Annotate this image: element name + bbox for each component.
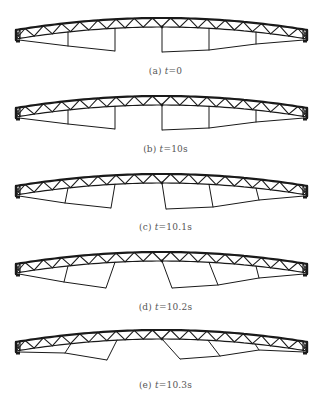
- strut: [64, 266, 68, 282]
- panel-d: (d) t=10.2s: [0, 234, 331, 314]
- truss-diagram: [0, 78, 331, 148]
- bottom-chord: [16, 261, 307, 273]
- caption-prefix: (e): [139, 380, 155, 390]
- joint-icon: [161, 338, 164, 341]
- cable-right: [180, 350, 304, 359]
- bottom-chord: [16, 339, 307, 351]
- web-members: [16, 174, 307, 195]
- truss-diagram: [0, 312, 331, 382]
- truss-diagram: [0, 0, 331, 70]
- caption: (a) t=0: [0, 66, 331, 76]
- strut: [65, 344, 71, 353]
- caption-prefix: (a): [149, 66, 165, 76]
- joint-icon: [161, 182, 164, 185]
- strut: [162, 339, 180, 359]
- caption-value: =10.1s: [159, 222, 192, 232]
- strut: [209, 262, 218, 285]
- caption-value: =10.2s: [159, 302, 192, 312]
- caption-prefix: (b): [143, 144, 159, 154]
- strut: [162, 183, 166, 209]
- caption-value: =10s: [163, 144, 187, 154]
- cable-right: [162, 118, 304, 130]
- joint-icon: [161, 260, 164, 263]
- cable-right: [172, 274, 304, 288]
- strut: [106, 262, 115, 288]
- web-members: [16, 252, 307, 273]
- caption: (d) t=10.2s: [0, 302, 331, 312]
- strut: [65, 188, 68, 203]
- web-members: [16, 330, 307, 351]
- caption-value: =0: [169, 66, 183, 76]
- cable-left: [19, 274, 106, 288]
- caption: (c) t=10.1s: [0, 222, 331, 232]
- joint-icon: [161, 26, 164, 29]
- strut: [256, 266, 259, 278]
- caption-value: =10.3s: [159, 380, 192, 390]
- panel-b: (b) t=10s: [0, 78, 331, 158]
- truss-diagram: [0, 156, 331, 226]
- strut: [256, 188, 259, 200]
- caption: (e) t=10.3s: [0, 380, 331, 390]
- strut: [208, 340, 220, 356]
- panel-c: (c) t=10.1s: [0, 156, 331, 236]
- bottom-chord: [16, 183, 307, 195]
- caption-prefix: (d): [139, 302, 155, 312]
- cable-right: [166, 196, 304, 209]
- cable-left: [19, 40, 115, 51]
- caption-prefix: (c): [139, 222, 155, 232]
- cable-left: [19, 118, 115, 129]
- truss-diagram: [0, 234, 331, 304]
- panel-e: (e) t=10.3s: [0, 312, 331, 392]
- panel-a: (a) t=0: [0, 0, 331, 80]
- strut: [162, 261, 172, 288]
- strut: [209, 184, 213, 207]
- cable-right: [162, 40, 304, 52]
- cable-left: [19, 352, 107, 360]
- strut: [111, 184, 115, 208]
- strut: [107, 340, 117, 360]
- caption: (b) t=10s: [0, 144, 331, 154]
- joint-icon: [161, 104, 164, 107]
